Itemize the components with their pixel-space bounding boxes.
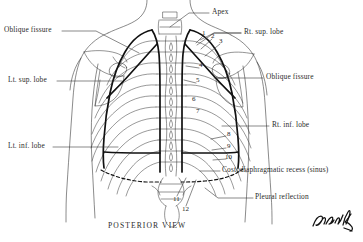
rib-number: 12 xyxy=(182,205,189,213)
label-pleural-reflection: Pleural reflection xyxy=(255,193,309,200)
rib-number: 11 xyxy=(173,195,180,203)
rib-number: 10 xyxy=(225,153,232,161)
label-oblique-fissure-right: Oblique fissure xyxy=(266,73,314,80)
rib-number: 8 xyxy=(227,130,231,138)
rib-number: 9 xyxy=(227,142,231,150)
ribs-left xyxy=(91,41,160,196)
rib-number: 5 xyxy=(196,76,200,84)
label-rt-sup-lobe: Rt. sup. lobe xyxy=(244,28,283,35)
rib-number: 2 xyxy=(211,32,215,40)
artist-signature xyxy=(311,209,359,235)
label-costodiaphragmatic-recess: Costodiaphragmatic recess (sinus) xyxy=(222,166,328,173)
rib-number: 7 xyxy=(196,107,200,115)
label-apex: Apex xyxy=(212,8,229,15)
leader-lines xyxy=(53,13,269,206)
label-lt-inf-lobe: Lt. inf. lobe xyxy=(8,142,45,149)
label-rt-inf-lobe: Rt. inf. lobe xyxy=(272,121,309,128)
label-lt-sup-lobe: Lt. sup. lobe xyxy=(8,76,47,83)
label-oblique-fissure-left: Oblique fissure xyxy=(4,26,52,33)
rib-number: 4 xyxy=(199,61,203,69)
rib-number: 1 xyxy=(202,29,206,37)
torso-outline xyxy=(66,0,272,224)
figure-title: POSTERIOR VIEW xyxy=(108,221,186,230)
rib-number: 6 xyxy=(192,95,196,103)
rib-number: 3 xyxy=(219,37,223,45)
anatomy-figure: Oblique fissure Lt. sup. lobe Lt. inf. l… xyxy=(0,0,363,242)
